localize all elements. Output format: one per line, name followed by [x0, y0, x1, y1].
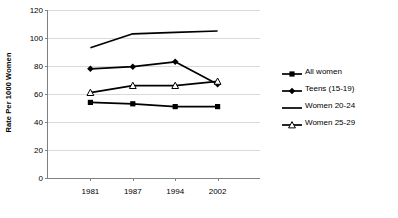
legend-item[interactable]: Women 20-24: [281, 97, 393, 114]
x-axis-tick-mark: [175, 178, 176, 181]
y-axis-tick-label: 20: [34, 146, 43, 155]
legend-key-icon: [281, 66, 303, 78]
y-axis-tick-label: 100: [30, 34, 43, 43]
x-axis-tick-label: 1994: [166, 187, 184, 196]
line-chart: Rate Per 1000 Women 020406080100120 1981…: [0, 0, 398, 218]
series-layer: [48, 10, 260, 178]
legend-key-icon: [281, 117, 303, 129]
data-point-marker-square: [88, 100, 93, 105]
legend-key-icon: [281, 83, 303, 95]
x-axis-tick-mark: [133, 178, 134, 181]
y-axis-tick-label: 40: [34, 118, 43, 127]
series-line: [90, 62, 217, 84]
data-point-marker-diamond: [289, 87, 296, 94]
y-axis-tick-label: 80: [34, 62, 43, 71]
y-axis-tick-label: 60: [34, 90, 43, 99]
legend-key-icon: [281, 100, 303, 112]
series-line: [90, 81, 217, 92]
legend-item-label: All women: [305, 67, 342, 76]
legend-item[interactable]: Women 25-29: [281, 114, 393, 131]
data-point-marker-square: [130, 101, 135, 106]
y-axis-tick-label: 120: [30, 6, 43, 15]
data-point-marker-diamond: [172, 59, 179, 66]
data-point-marker-square: [215, 104, 220, 109]
series-1: [88, 100, 220, 109]
y-axis-tick-label: 0: [39, 174, 43, 183]
x-axis-tick-label: 1981: [81, 187, 99, 196]
legend-item[interactable]: Teens (15-19): [281, 80, 393, 97]
legend-item-label: Teens (15-19): [305, 84, 354, 93]
x-axis-tick-mark: [90, 178, 91, 181]
series-line: [90, 102, 217, 106]
chart-legend: All womenTeens (15-19)Women 20-24Women 2…: [281, 63, 393, 131]
data-point-marker-square: [289, 71, 294, 76]
x-axis-tick-label: 2002: [209, 187, 227, 196]
legend-item-label: Women 25-29: [305, 118, 355, 127]
legend-item-label: Women 20-24: [305, 101, 355, 110]
data-point-marker-diamond: [130, 63, 137, 70]
legend-item[interactable]: All women: [281, 63, 393, 80]
y-axis-tick-mark: [45, 178, 48, 179]
series-line: [90, 31, 217, 48]
x-axis-tick-label: 1987: [124, 187, 142, 196]
y-axis-title-label: Rate Per 1000 Women: [4, 52, 13, 132]
series-4: [87, 78, 221, 95]
x-axis-tick-mark: [218, 178, 219, 181]
series-3: [90, 31, 217, 48]
plot-area: 020406080100120 1981198719942002: [47, 10, 260, 179]
data-point-marker-square: [173, 104, 178, 109]
y-axis-title: Rate Per 1000 Women: [0, 0, 16, 185]
data-point-marker-diamond: [87, 66, 94, 73]
